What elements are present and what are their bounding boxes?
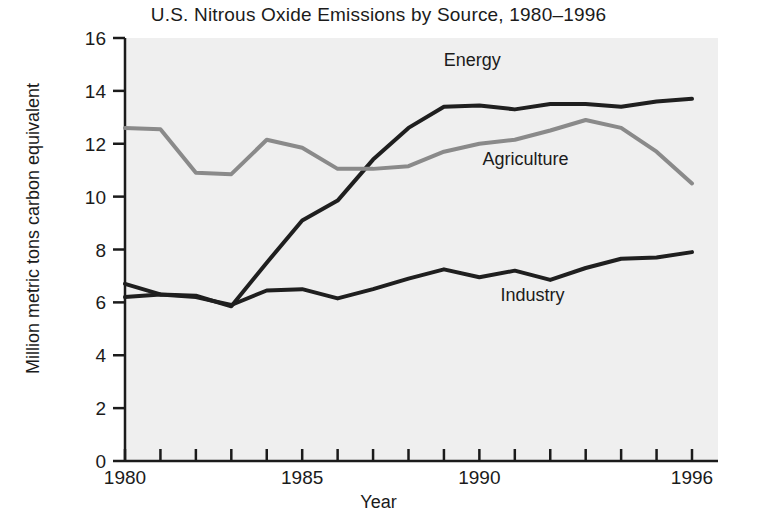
- series-annotation-industry: Industry: [501, 285, 565, 305]
- y-tick-label: 10: [85, 187, 106, 208]
- plot-background: [125, 38, 718, 461]
- series-annotation-energy: Energy: [444, 50, 501, 70]
- y-tick-label: 8: [95, 240, 106, 261]
- y-tick-label: 16: [85, 28, 106, 49]
- plot-area: 0246810121416 1980198519901996 EnergyAgr…: [0, 0, 757, 524]
- chart-figure: U.S. Nitrous Oxide Emissions by Source, …: [0, 0, 757, 524]
- x-tick-label: 1990: [458, 467, 500, 488]
- x-tick-label: 1996: [671, 467, 713, 488]
- x-tick-label: 1980: [104, 467, 146, 488]
- y-tick-label: 12: [85, 134, 106, 155]
- x-tick-label: 1985: [281, 467, 323, 488]
- x-axis-ticks: 1980198519901996: [104, 449, 713, 488]
- y-tick-label: 6: [95, 292, 106, 313]
- series-annotation-agriculture: Agriculture: [482, 149, 568, 169]
- y-axis-ticks: 0246810121416: [85, 28, 125, 472]
- y-tick-label: 4: [95, 345, 106, 366]
- y-tick-label: 14: [85, 81, 107, 102]
- y-tick-label: 2: [95, 398, 106, 419]
